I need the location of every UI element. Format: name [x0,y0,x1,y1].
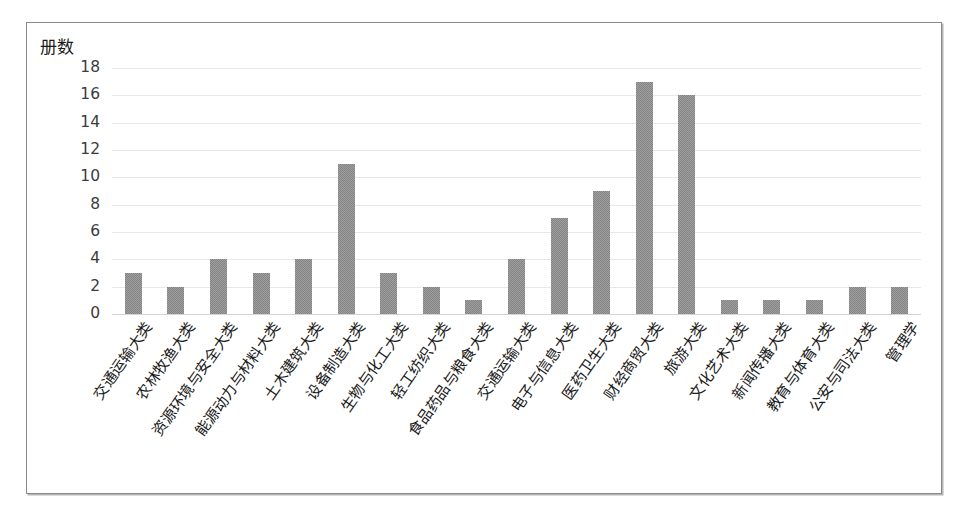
y-axis-tick-label: 6 [90,224,100,240]
y-axis-title: 册数 [40,39,74,56]
y-axis-tick-label: 4 [90,252,100,268]
bar [721,300,738,314]
bar [423,287,440,314]
y-axis-tick-label: 16 [80,88,100,104]
bar [380,273,397,314]
bar [849,287,866,314]
y-axis-tick-label: 14 [80,115,100,131]
bar [508,259,525,314]
bar [891,287,908,314]
y-axis-tick-label: 0 [90,306,100,322]
plot-area [112,68,921,314]
bar [551,218,568,314]
x-axis-category-label: 管理学 [884,320,922,365]
bar [295,259,312,314]
bar [253,273,270,314]
y-axis-tick-label: 18 [80,60,100,76]
bar [338,164,355,314]
y-axis-tick-label: 12 [80,142,100,158]
bar [210,259,227,314]
bar [125,273,142,314]
bar [763,300,780,314]
bar-series [112,68,921,314]
y-axis-tick-labels: 181614121086420 [27,68,110,314]
bar [636,82,653,314]
bar [678,95,695,314]
bar [806,300,823,314]
bar [465,300,482,314]
bar [167,287,184,314]
y-axis-tick-label: 10 [80,170,100,186]
y-axis-tick-label: 8 [90,197,100,213]
x-axis-category-labels: 交通运输大类农林牧渔大类资源环境与安全大类能源动力与材料大类土木建筑大类设备制造… [112,314,921,489]
chart-figure-frame: 册数 181614121086420 交通运输大类农林牧渔大类资源环境与安全大类… [26,22,942,494]
y-axis-tick-label: 2 [90,279,100,295]
bar [593,191,610,314]
